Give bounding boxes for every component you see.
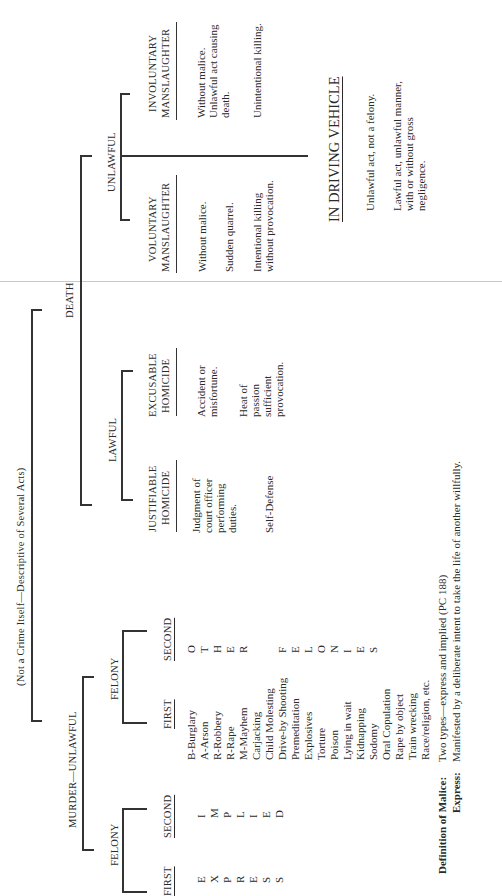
list-item: Race/religion, etc. [419,680,431,760]
list-item: Drive-by Shooting [276,678,288,760]
involuntary-header-1: INVOLUNTARY [147,35,159,112]
murder-label: MURDER—UNLAWFUL [67,712,79,829]
death-bracket-line [80,155,82,505]
malice-felony-label: FELONY [109,823,121,866]
root-note: (Not a Crime Itself—Descriptive of Sever… [15,468,27,686]
malice-definition-value: Two types—express and implied (PC 188) [436,575,448,762]
excusable-item-accident: Accident or misfortune. [195,365,219,417]
involuntary-header-2: MANSLAUGHTER [160,29,172,118]
voluntary-item-without-malice: Without malice. [196,202,208,272]
list-item: Torture [315,728,327,760]
felony-bracket-line [122,630,124,723]
felony-tick-top [122,630,147,632]
list-item: R-Rape [224,726,236,760]
felony-second-header: SECOND [162,618,174,661]
list-item: M-Mayhem [237,707,249,760]
justifiable-item-self-defense: Self-Defense [263,476,275,533]
list-item: Child Molesting [263,688,275,760]
murder-bracket-tick-bottom [82,849,94,851]
voluntary-header-1: VOLUNTARY [147,196,159,262]
involuntary-underline [176,22,177,120]
root-bracket-tick-top [31,309,42,311]
involuntary-item-without-malice: Without malice. Unlawful act causing dea… [195,25,231,118]
excusable-header-1: EXCUSABLE [147,353,159,417]
voluntary-item-intentional: Intentional killing without provocation. [251,180,275,272]
root-bracket-line [31,309,33,721]
unlawful-tick-top [120,93,130,95]
unlawful-vehicle-connector [120,155,308,157]
unlawful-tick-bottom [120,219,130,221]
death-bracket-tick-top [80,155,92,157]
death-bracket-tick-bottom [80,504,92,506]
list-item: Kidnapping [354,708,366,760]
voluntary-underline [176,175,177,273]
malice-felony-tick-bottom [122,891,147,893]
murder-bracket-line [82,676,84,850]
malice-first-header: FIRST [162,866,174,896]
list-item: Lying in wait [341,701,353,760]
express-value: Manifested by a deliberate intent to tak… [450,461,462,762]
list-item: Premeditation [289,698,301,760]
vehicle-header: IN DRIVING VEHICLE [326,76,342,222]
lawful-tick-top [121,370,133,372]
list-item: A-Arson [198,722,210,761]
excusable-item-heat-of-passion: Heat of passion sufficient provocation. [237,362,285,417]
malice-definition-label: Definition of Malice: [436,777,448,874]
list-item: Train wrecking [406,693,418,760]
murder-bracket-tick-top [82,676,94,678]
death-label: DEATH [64,283,76,318]
lawful-bracket-line [121,370,123,500]
list-item: Explosives [302,712,314,760]
malice-second-header: SECOND [162,795,174,838]
list-item: Oral Copulation [380,689,392,760]
justifiable-underline [176,460,177,532]
excusable-header-2: HOMICIDE [160,359,172,413]
justifiable-header-2: HOMICIDE [160,471,172,525]
felony-tick-bottom [122,722,147,724]
vehicle-item-unlawful-act: Unlawful act, not a felony. [364,94,376,211]
list-item: B-Burglary [185,710,197,760]
list-item: Rape by object [393,694,405,760]
involuntary-item-unintentional: Unintentional killing. [251,23,263,118]
unlawful-label: UNLAWFUL [106,132,118,192]
justifiable-header-1: JUSTIFIABLE [147,466,159,532]
list-item: Poison [328,730,340,760]
lawful-tick-bottom [121,499,133,501]
felony-first-header: FIRST [162,699,174,729]
vehicle-item-lawful-act: Lawful act, unlawful manner, with or wit… [391,81,427,211]
list-item: R-Robbery [211,711,223,760]
malice-felony-bracket-line [122,808,124,892]
malice-felony-tick-top [122,808,147,810]
voluntary-item-sudden-quarrel: Sudden quarrel. [223,202,235,272]
felony-label: FELONY [109,657,121,700]
lawful-label: LAWFUL [107,418,119,462]
excusable-underline [176,348,177,416]
voluntary-header-2: MANSLAUGHTER [160,183,172,272]
unlawful-bracket-line [120,93,122,220]
list-item: Sodomy [367,723,379,760]
justifiable-item-court-officer: Judgment of court officer performing dut… [190,478,238,533]
list-item: Carjacking [250,712,262,760]
root-bracket-tick-bottom [31,720,42,722]
express-label: Express: [450,772,462,813]
